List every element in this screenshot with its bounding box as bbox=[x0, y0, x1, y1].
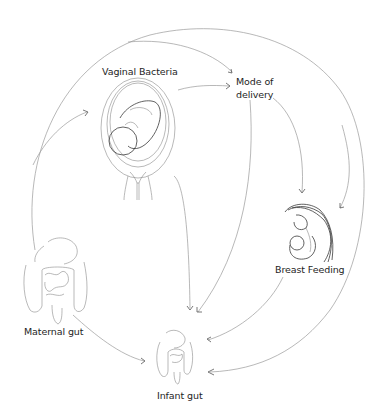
arrow-mode-to-breastfeeding bbox=[273, 98, 305, 193]
microbiome-transfer-diagram: Vaginal Bacteria Mode of delivery Breast… bbox=[0, 0, 377, 417]
diagram-graphics bbox=[0, 0, 377, 417]
arrow-vaginal-to-infant bbox=[174, 176, 193, 310]
uterus-with-fetus-icon bbox=[101, 78, 175, 200]
label-maternal-gut: Maternal gut bbox=[24, 325, 83, 338]
arrow-breastfeeding-to-infant bbox=[207, 277, 283, 342]
arrow-mode-to-infant bbox=[197, 100, 251, 312]
label-mode-of-delivery: Mode of delivery bbox=[236, 75, 273, 101]
arrow-maternal-to-vaginal bbox=[33, 110, 88, 165]
label-infant-gut: Infant gut bbox=[157, 389, 203, 402]
arrow-outer-to-breastfeeding bbox=[340, 125, 349, 208]
label-vaginal-bacteria: Vaginal Bacteria bbox=[102, 65, 178, 78]
maternal-intestines-icon bbox=[24, 238, 87, 324]
label-breast-feeding: Breast Feeding bbox=[275, 263, 345, 276]
mother-nursing-infant-icon bbox=[285, 204, 333, 262]
arrow-maternal-to-infant bbox=[73, 315, 145, 364]
infant-intestines-icon bbox=[157, 330, 193, 384]
arrow-vaginal-to-mode bbox=[178, 83, 230, 90]
